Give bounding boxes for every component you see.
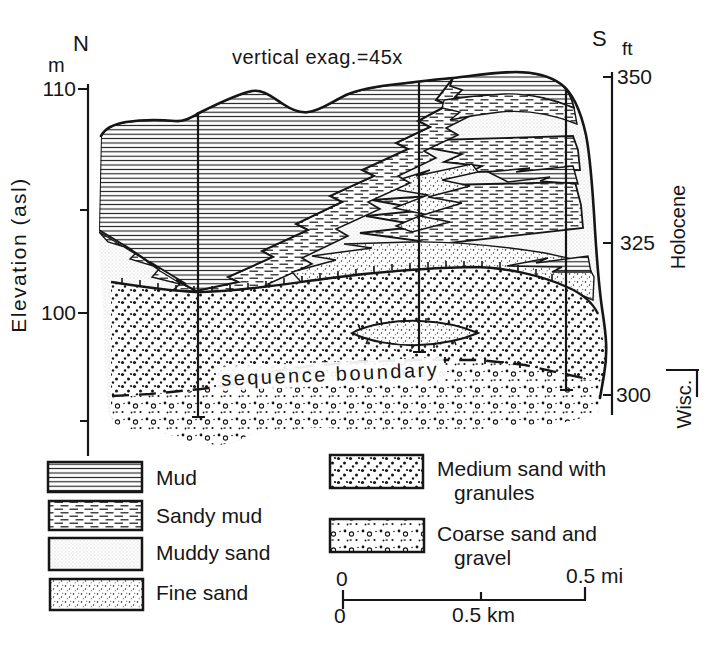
- legend-label-muddy-sand: Muddy sand: [156, 541, 270, 565]
- right-tick-350: 350: [617, 65, 652, 88]
- north-label: N: [73, 32, 89, 56]
- vertical-exaggeration-label: vertical exag.=45x: [232, 46, 403, 68]
- left-tick-100: 100: [36, 301, 76, 324]
- legend-label-mud: Mud: [156, 466, 197, 490]
- legend-label-medium-sand: Medium sand with granules: [437, 457, 644, 505]
- legend-swatch-coarse-sand: [330, 519, 424, 552]
- right-tick-300: 300: [616, 383, 651, 406]
- legend-label-sandy-mud: Sandy mud: [156, 504, 262, 528]
- left-axis-unit: m: [48, 54, 65, 76]
- legend-swatch-mud: [48, 462, 142, 492]
- elevation-axis-label: Elevation (asl): [7, 177, 31, 333]
- legend-label-fine-sand: Fine sand: [156, 581, 248, 605]
- right-tick-325: 325: [620, 231, 655, 254]
- legend-swatch-muddy-sand: [49, 538, 142, 570]
- geologic-cross-section-figure: N m 110 100 Elevation (asl) vertical exa…: [0, 0, 719, 645]
- south-label: S: [592, 27, 607, 51]
- legend-swatch-medium-sand: [330, 455, 423, 488]
- right-axis-unit: ft: [622, 39, 633, 60]
- legend-swatch-sandy-mud: [49, 501, 142, 530]
- left-tick-110: 110: [36, 77, 76, 100]
- scale-km-zero: 0: [334, 604, 346, 627]
- legend-swatch-fine-sand: [50, 579, 143, 610]
- wisconsin-label: Wisc.: [673, 380, 696, 429]
- left-elevation-axis: [78, 84, 88, 456]
- scale-km-end: 0.5 km: [452, 603, 515, 626]
- scale-mi-end: 0.5 mi: [566, 564, 623, 587]
- scale-mi-zero: 0: [336, 567, 348, 590]
- holocene-label: Holocene: [667, 185, 690, 270]
